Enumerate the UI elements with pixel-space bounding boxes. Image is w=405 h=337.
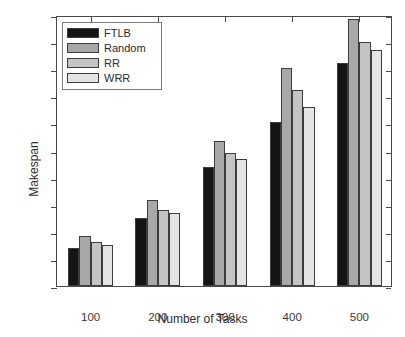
bar-ftlb-100 — [68, 248, 79, 286]
y-axis-tick-right — [386, 207, 391, 208]
legend-swatch-icon — [67, 73, 99, 83]
bar-wrr-300 — [236, 159, 247, 286]
bar-random-300 — [214, 141, 225, 286]
y-axis-tick — [51, 125, 57, 126]
y-axis-tick — [51, 261, 57, 262]
legend-label: Random — [104, 43, 146, 54]
bar-random-400 — [281, 68, 292, 286]
y-axis-tick-right — [386, 17, 391, 18]
legend-label: WRR — [104, 73, 130, 84]
y-axis-tick-right — [386, 288, 391, 289]
x-axis-tick-top — [292, 17, 293, 22]
bar-ftlb-200 — [135, 218, 146, 286]
y-axis-tick — [51, 153, 57, 154]
y-axis-tick-right — [386, 234, 391, 235]
bar-ftlb-500 — [337, 63, 348, 286]
bar-wrr-200 — [169, 213, 180, 286]
bar-rr-300 — [225, 153, 236, 286]
legend-swatch-icon — [67, 43, 99, 53]
legend-item-random: Random — [67, 41, 157, 55]
legend-swatch-icon — [67, 28, 99, 38]
bar-random-100 — [79, 236, 90, 286]
y-axis-tick-right — [386, 153, 391, 154]
bar-wrr-100 — [102, 245, 113, 286]
x-axis-title: Number of Tasks — [0, 312, 405, 326]
bar-ftlb-300 — [203, 167, 214, 286]
bar-random-200 — [147, 200, 158, 286]
chart-legend: FTLBRandomRRWRR — [62, 22, 162, 90]
legend-label: RR — [104, 58, 120, 69]
legend-item-wrr: WRR — [67, 71, 157, 85]
legend-label: FTLB — [104, 28, 131, 39]
chart-figure: Makespan 0501001502002503003504004505001… — [0, 0, 405, 337]
legend-item-ftlb: FTLB — [67, 26, 157, 40]
bar-rr-100 — [91, 242, 102, 286]
y-axis-tick-right — [386, 180, 391, 181]
y-axis-tick-right — [386, 44, 391, 45]
y-axis-tick — [51, 234, 57, 235]
bar-rr-500 — [359, 42, 370, 286]
y-axis-tick — [51, 17, 57, 18]
y-axis-tick — [51, 44, 57, 45]
bar-rr-200 — [158, 210, 169, 286]
y-axis-tick — [51, 180, 57, 181]
y-axis-title: Makespan — [27, 141, 41, 196]
y-axis-tick-right — [386, 261, 391, 262]
y-axis-tick — [51, 288, 57, 289]
bar-rr-400 — [292, 90, 303, 286]
bar-wrr-400 — [303, 107, 314, 286]
legend-swatch-icon — [67, 58, 99, 68]
bar-wrr-500 — [371, 50, 382, 286]
x-axis-tick-top — [359, 17, 360, 22]
y-axis-tick — [51, 71, 57, 72]
y-axis-tick — [51, 207, 57, 208]
y-axis-tick-right — [386, 125, 391, 126]
bar-ftlb-400 — [270, 122, 281, 286]
y-axis-tick-right — [386, 71, 391, 72]
bar-random-500 — [348, 19, 359, 286]
y-axis-tick-right — [386, 98, 391, 99]
y-axis-tick — [51, 98, 57, 99]
x-axis-tick-top — [225, 17, 226, 22]
legend-item-rr: RR — [67, 56, 157, 70]
